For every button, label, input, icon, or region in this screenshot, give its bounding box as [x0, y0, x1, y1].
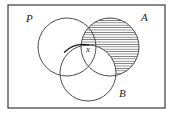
- venn-diagram-canvas: P A B x: [0, 0, 172, 118]
- label-x: x: [85, 44, 90, 54]
- label-p: P: [25, 12, 33, 24]
- label-a: A: [140, 11, 148, 23]
- venn-diagram-figure: P A B x: [0, 0, 172, 118]
- label-b: B: [119, 87, 126, 99]
